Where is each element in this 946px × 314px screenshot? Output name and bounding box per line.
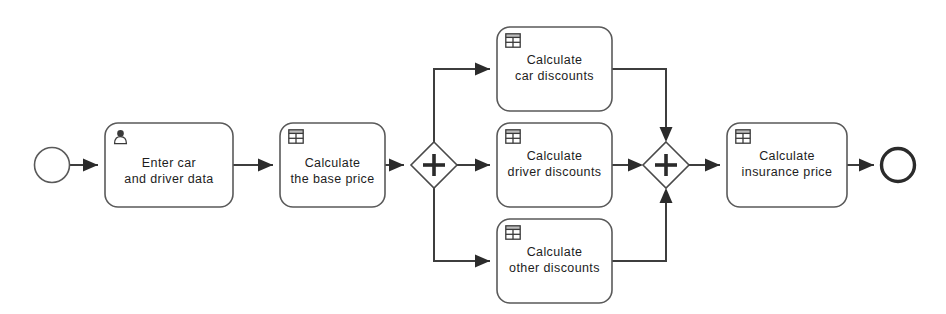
- task-calculate-other-discounts[interactable]: Calculate other discounts: [497, 219, 612, 303]
- flow-car-discounts-to-join: [612, 69, 666, 135]
- arrow-into-car-discounts: [475, 63, 490, 76]
- flow-split-to-car-discounts: [434, 69, 490, 142]
- start-event-circle[interactable]: [35, 148, 70, 183]
- task-calculate-the-base-price[interactable]: Calculate the base price: [280, 123, 385, 207]
- end-event-circle[interactable]: [882, 149, 915, 182]
- bpmn-diagram-svg: Enter car and driver data Calculate the …: [0, 0, 946, 314]
- arrow-into-end-event: [859, 159, 874, 172]
- gateway-parallel-join[interactable]: [643, 142, 689, 188]
- task-calculate-driver-discounts-line1: Calculate: [527, 149, 583, 163]
- bpmn-diagram-canvas: Enter car and driver data Calculate the …: [0, 0, 946, 314]
- flow-split-to-other-discounts: [434, 188, 490, 261]
- task-calculate-the-base-price-line1: Calculate: [305, 156, 361, 170]
- task-enter-car-and-driver-data-line2: and driver data: [124, 172, 213, 186]
- task-calculate-car-discounts[interactable]: Calculate car discounts: [497, 27, 612, 111]
- task-calculate-driver-discounts-line2: driver discounts: [508, 165, 602, 179]
- gateway-parallel-split[interactable]: [411, 142, 457, 188]
- task-calculate-other-discounts-line1: Calculate: [527, 245, 583, 259]
- arrow-into-base-price: [258, 159, 273, 172]
- task-calculate-insurance-price-line2: insurance price: [742, 165, 833, 179]
- arrow-into-join-top: [660, 127, 673, 142]
- arrow-into-enter-data: [83, 159, 98, 172]
- task-calculate-insurance-price[interactable]: Calculate insurance price: [727, 123, 847, 207]
- arrow-into-other-discounts: [475, 255, 490, 268]
- task-calculate-the-base-price-line2: the base price: [290, 172, 374, 186]
- arrow-into-split: [389, 159, 404, 172]
- task-calculate-other-discounts-line2: other discounts: [509, 261, 600, 275]
- task-calculate-car-discounts-line1: Calculate: [527, 53, 583, 67]
- arrow-into-insurance-price: [705, 159, 720, 172]
- arrow-into-join-bottom: [660, 188, 673, 203]
- start-event[interactable]: [35, 148, 70, 183]
- task-calculate-driver-discounts[interactable]: Calculate driver discounts: [497, 123, 612, 207]
- task-calculate-insurance-price-line1: Calculate: [759, 149, 815, 163]
- flow-other-discounts-to-join: [612, 195, 666, 261]
- task-enter-car-and-driver-data-line1: Enter car: [142, 156, 196, 170]
- arrow-into-join-left: [628, 159, 643, 172]
- task-calculate-car-discounts-line2: car discounts: [515, 69, 594, 83]
- arrow-into-driver-discounts: [475, 159, 490, 172]
- end-event[interactable]: [882, 149, 915, 182]
- task-enter-car-and-driver-data[interactable]: Enter car and driver data: [105, 123, 233, 207]
